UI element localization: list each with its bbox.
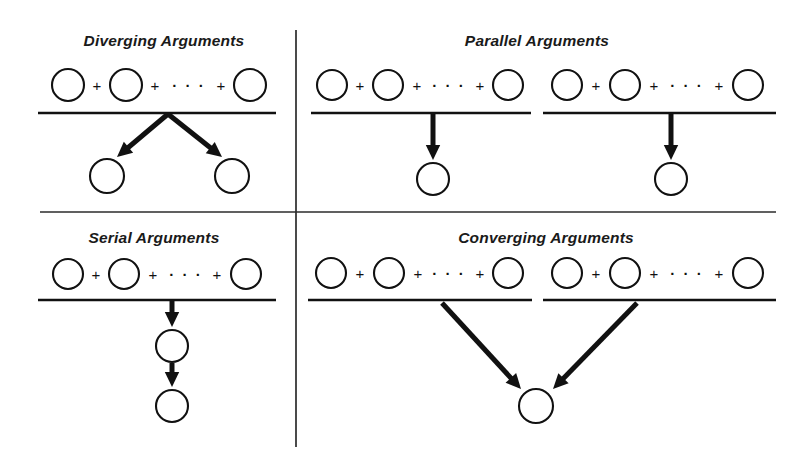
plus-sign-1: + <box>92 266 101 283</box>
arrow-shaft <box>561 303 637 380</box>
conclusion-node-2 <box>215 159 249 193</box>
plus-sign-1: + <box>356 265 365 282</box>
premise-node-1 <box>316 258 346 288</box>
arrow-head <box>426 145 440 160</box>
quadrant-parallel: Parallel Arguments+++· · ·+++· · · <box>311 32 776 195</box>
premise-group-serial-0: +++· · · <box>38 259 276 300</box>
quadrant-title-converging: Converging Arguments <box>458 229 634 246</box>
quadrant-serial: Serial Arguments+++· · · <box>38 229 276 422</box>
premise-node-3 <box>493 258 523 288</box>
ellipsis: · · · <box>169 266 202 283</box>
premise-group-parallel-0: +++· · · <box>311 70 531 113</box>
conclusion-node-1 <box>417 163 449 195</box>
premise-node-1 <box>552 70 582 100</box>
premise-node-3 <box>733 70 763 100</box>
inference-arrow-parallel-1 <box>426 114 440 160</box>
inference-arrow-diverging-1 <box>117 114 168 157</box>
quadrant-converging: Converging Arguments+++· · ·+++· · · <box>308 229 776 423</box>
plus-sign-2: + <box>413 77 422 94</box>
plus-sign-3: + <box>476 77 485 94</box>
quadrant-diverging: Diverging Arguments+++· · · <box>38 32 276 193</box>
premise-node-3 <box>231 259 261 289</box>
plus-sign-2: + <box>149 266 158 283</box>
plus-sign-2: + <box>414 265 423 282</box>
arrow-shaft <box>126 114 168 149</box>
premise-group-parallel-1: +++· · · <box>543 70 776 113</box>
ellipsis: · · · <box>432 77 465 94</box>
premise-node-2 <box>374 258 404 288</box>
conclusion-node-1 <box>90 159 124 193</box>
inference-arrow-diverging-2 <box>168 114 222 157</box>
plus-sign-3: + <box>476 265 485 282</box>
ellipsis: · · · <box>670 265 703 282</box>
premise-group-converging-1: +++· · · <box>543 258 776 300</box>
inference-arrow-converging-2 <box>553 303 637 389</box>
arrow-head <box>165 312 179 327</box>
premise-group-diverging-0: +++· · · <box>38 69 276 113</box>
premise-node-3 <box>733 258 763 288</box>
conclusion-node-2 <box>156 390 188 422</box>
plus-sign-1: + <box>356 77 365 94</box>
premise-node-2 <box>109 259 139 289</box>
plus-sign-2: + <box>650 77 659 94</box>
plus-sign-3: + <box>217 77 226 94</box>
conclusion-node-2 <box>655 163 687 195</box>
premise-node-3 <box>493 70 523 100</box>
premise-node-1 <box>53 259 83 289</box>
diagram-canvas: Diverging Arguments+++· · ·Parallel Argu… <box>0 0 808 460</box>
inference-arrow-serial-2 <box>165 363 179 387</box>
plus-sign-1: + <box>93 77 102 94</box>
premise-node-1 <box>317 70 347 100</box>
premise-node-2 <box>373 70 403 100</box>
premise-group-converging-0: +++· · · <box>308 258 532 300</box>
inference-arrow-serial-1 <box>165 301 179 327</box>
inference-arrow-converging-1 <box>442 303 521 389</box>
ellipsis: · · · <box>670 77 703 94</box>
conclusion-node-1 <box>519 389 553 423</box>
arrow-shaft <box>168 114 213 150</box>
inference-arrow-parallel-2 <box>664 114 678 160</box>
ellipsis: · · · <box>432 265 465 282</box>
premise-node-1 <box>52 69 84 101</box>
plus-sign-2: + <box>650 265 659 282</box>
arrow-head <box>664 145 678 160</box>
premise-node-1 <box>552 258 582 288</box>
plus-sign-1: + <box>592 265 601 282</box>
premise-node-2 <box>610 258 640 288</box>
plus-sign-3: + <box>715 265 724 282</box>
argument-structures-figure: Diverging Arguments+++· · ·Parallel Argu… <box>0 0 808 460</box>
conclusion-node-1 <box>156 330 188 362</box>
quadrant-title-parallel: Parallel Arguments <box>465 32 609 49</box>
premise-node-2 <box>610 70 640 100</box>
quadrant-title-serial: Serial Arguments <box>89 229 220 246</box>
premise-node-3 <box>234 69 266 101</box>
arrow-head <box>165 372 179 387</box>
plus-sign-3: + <box>715 77 724 94</box>
plus-sign-3: + <box>213 266 222 283</box>
premise-node-2 <box>110 69 142 101</box>
quadrant-title-diverging: Diverging Arguments <box>84 32 245 49</box>
plus-sign-1: + <box>592 77 601 94</box>
ellipsis: · · · <box>172 77 205 94</box>
plus-sign-2: + <box>151 77 160 94</box>
arrow-shaft <box>442 303 513 380</box>
